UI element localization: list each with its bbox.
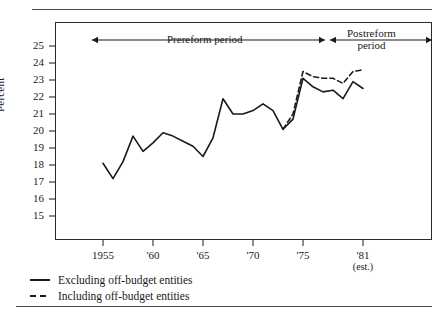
legend-item: Excluding off-budget entities [30,272,290,288]
legend-swatch-solid [30,279,50,281]
postreform-arrow-left [330,37,336,43]
data-series-including [283,70,363,130]
figure-chart: Percent 2524232221201918171615 1955'60'6… [0,0,448,313]
legend-swatch-dashed [30,295,50,297]
prereform-arrow-left [92,37,98,43]
data-series-excluding [103,78,363,178]
chart-legend: Excluding off-budget entitiesIncluding o… [30,272,290,304]
prereform-arrow-right [319,37,325,43]
chart-svg [0,0,448,313]
legend-label: Excluding off-budget entities [58,272,193,288]
legend-item: Including off-budget entities [30,288,290,304]
postreform-arrow-right [426,37,432,43]
legend-label: Including off-budget entities [58,288,189,304]
